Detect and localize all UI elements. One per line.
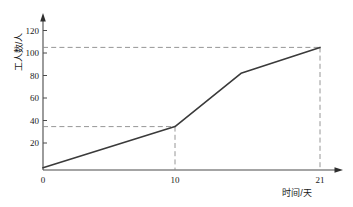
y-tick-label-40: 40 (30, 116, 40, 126)
x-tick-label-10: 10 (171, 175, 181, 185)
y-tick-label-20: 20 (30, 138, 40, 148)
chart-screenshot: 120 100 80 60 40 20 0 10 21 工人数/人 时间/天 (0, 0, 353, 207)
y-tick-label-80: 80 (30, 71, 40, 81)
y-tick-label-100: 100 (26, 48, 40, 58)
x-tick-label-0: 0 (41, 175, 46, 185)
y-axis-title: 工人数/人 (13, 33, 24, 72)
line-chart: 120 100 80 60 40 20 0 10 21 工人数/人 时间/天 (0, 0, 353, 207)
y-tick-label-60: 60 (30, 93, 40, 103)
x-tick-label-21: 21 (316, 175, 325, 185)
x-axis-title: 时间/天 (282, 187, 312, 198)
y-tick-label-120: 120 (26, 26, 40, 36)
